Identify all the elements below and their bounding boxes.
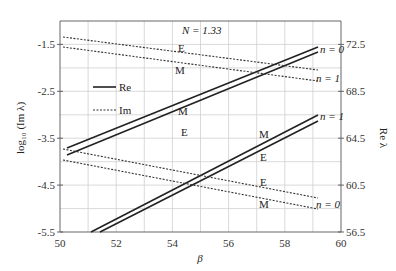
im-n1-M-line (63, 47, 318, 81)
re-n0-M-line (67, 47, 318, 148)
annotation-E: E (181, 126, 188, 138)
y-axis-right-label: Re λ (378, 128, 390, 149)
y-axis-left-label: log₁₀ (Im λ) (14, 102, 27, 154)
x-tick-label: 54 (167, 237, 179, 249)
annotation-E: E (178, 42, 185, 54)
x-tick-label: 60 (336, 237, 348, 249)
annotation-M: M (175, 64, 185, 76)
y-axis-right: 72.5 68.5 64.5 60.5 56.5 Re λ (338, 38, 390, 238)
im-n0-M-line (63, 160, 318, 209)
y-right-tick-label: 56.5 (346, 226, 366, 238)
y-right-tick-label: 60.5 (346, 179, 366, 191)
annotation-M: M (259, 128, 269, 140)
annotation-M: M (178, 105, 188, 117)
y-tick-label: -1.5 (38, 38, 56, 50)
y-tick-label: -5.5 (38, 226, 56, 238)
y-tick-label: -4.5 (38, 179, 56, 191)
legend-re-label: Re (119, 81, 131, 93)
x-axis: 50 52 54 56 58 60 β (55, 237, 348, 264)
x-tick-label: 52 (111, 237, 122, 249)
y-right-tick-label: 64.5 (346, 132, 366, 144)
annotation-n0-bot: n = 0 (316, 198, 340, 210)
y-axis-left: -1.5 -2.5 -3.5 -4.5 -5.5 log₁₀ (Im λ) (14, 38, 63, 238)
x-tick-label: 56 (223, 237, 235, 249)
im-n1-E-line (63, 37, 318, 70)
re-n1-M-line (91, 115, 318, 232)
annotation-E: E (260, 151, 267, 163)
x-tick-label: 58 (279, 237, 291, 249)
y-right-tick-label: 68.5 (346, 85, 366, 97)
annotation-n0-top: n = 0 (320, 43, 344, 55)
legend-im-label: Im (119, 104, 132, 116)
y-tick-label: -3.5 (38, 132, 56, 144)
x-axis-label: β (196, 252, 203, 264)
annotation-n1-top: n = 1 (316, 72, 340, 84)
chart: -1.5 -2.5 -3.5 -4.5 -5.5 log₁₀ (Im λ) 72… (0, 0, 396, 271)
x-tick-label: 50 (55, 237, 67, 249)
chart-title: N = 1.33 (181, 24, 222, 36)
annotation-M: M (259, 198, 269, 210)
y-tick-label: -2.5 (38, 85, 56, 97)
re-series (67, 47, 318, 232)
im-n0-E-line (63, 149, 318, 198)
annotation-n1-mid: n = 1 (320, 110, 344, 122)
y-right-tick-label: 72.5 (346, 38, 366, 50)
legend: Re Im (93, 81, 132, 116)
annotation-E: E (260, 176, 267, 188)
